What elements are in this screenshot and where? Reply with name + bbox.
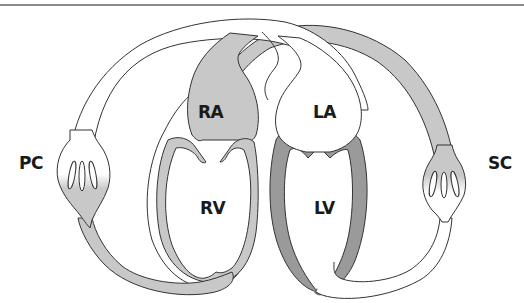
left-atrium-chamber: [276, 36, 362, 152]
label-left-ventricle: LV: [314, 200, 335, 217]
label-right-ventricle: RV: [200, 200, 225, 217]
aorta: [316, 218, 452, 298]
pc-channel-2: [79, 161, 85, 191]
circulation-diagram: [0, 0, 524, 303]
right-heart: [147, 33, 258, 288]
label-pulmonary-capillaries: PC: [19, 155, 43, 172]
label-right-atrium: RA: [198, 104, 223, 121]
pulmonary-capillary-bed: [57, 130, 110, 228]
label-systemic-capillaries: SC: [488, 155, 512, 172]
systemic-capillary-bed: [423, 145, 466, 222]
sc-channel-2: [441, 172, 447, 198]
label-left-atrium: LA: [313, 104, 336, 121]
